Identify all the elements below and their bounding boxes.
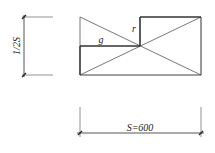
r-label: r xyxy=(132,23,136,34)
rectangle-figure: g r xyxy=(80,17,201,75)
g-label: g xyxy=(99,34,104,45)
height-dimension: 1/2S xyxy=(11,15,53,77)
diagram-canvas: 1/2S g r S=600 xyxy=(0,0,215,153)
width-dim-label: S=600 xyxy=(127,122,154,133)
width-dimension: S=600 xyxy=(77,107,204,137)
height-dim-label: 1/2S xyxy=(11,37,22,55)
